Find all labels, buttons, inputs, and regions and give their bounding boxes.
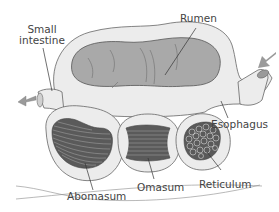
label-omasum: Omasum [137, 182, 184, 193]
small-intestine-opening [37, 93, 43, 107]
label-reticulum: Reticulum [199, 179, 252, 190]
label-small-intestine: Small intestine [17, 24, 67, 46]
food-in-arrow-icon [258, 52, 276, 68]
small-intestine-leader [43, 48, 52, 91]
label-rumen: Rumen [180, 13, 217, 24]
label-esophagus: Esophagus [211, 119, 268, 130]
label-abomasum: Abomasum [67, 191, 126, 202]
food-out-arrow-icon [18, 96, 36, 106]
label-small-intestine-line2: intestine [17, 35, 67, 46]
